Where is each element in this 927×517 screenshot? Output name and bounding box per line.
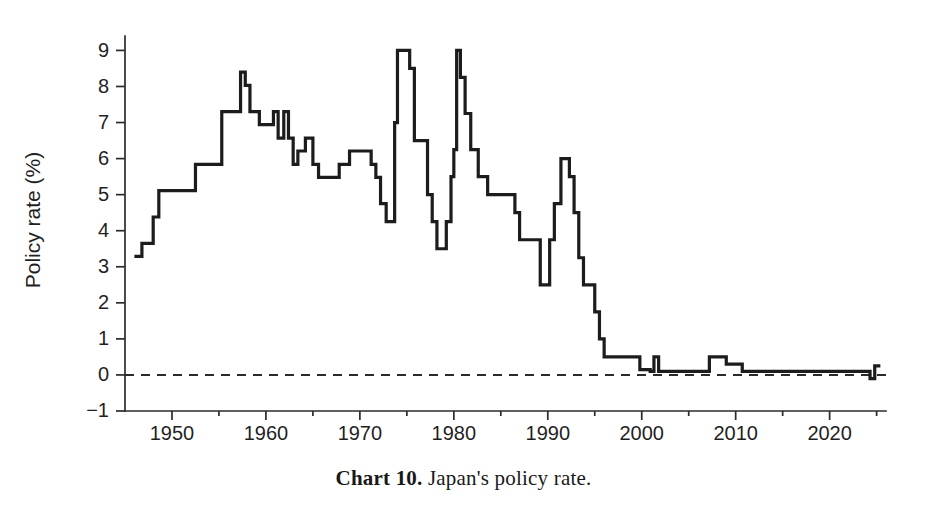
policy-rate-chart: Policy rate (%) −10123456789 19501960197… <box>0 0 927 517</box>
x-tick-label: 1970 <box>338 422 383 444</box>
x-tick-label: 1950 <box>150 422 195 444</box>
x-tick-label: 2000 <box>619 422 664 444</box>
y-tick-label: −1 <box>86 399 109 421</box>
x-tick-label: 1980 <box>432 422 477 444</box>
y-tick-label: 2 <box>98 291 109 313</box>
x-tick-label: 2020 <box>807 422 852 444</box>
y-tick-label: 3 <box>98 255 109 277</box>
y-axis-title: Policy rate (%) <box>21 152 44 289</box>
y-tick-label: 5 <box>98 183 109 205</box>
x-tick-label: 2010 <box>713 422 758 444</box>
policy-rate-series-line <box>134 50 880 378</box>
x-axis-ticks: 19501960197019801990200020102020 <box>150 411 877 444</box>
y-tick-label: 9 <box>98 39 109 61</box>
y-tick-label: 8 <box>98 75 109 97</box>
x-tick-label: 1990 <box>526 422 571 444</box>
y-tick-label: 4 <box>98 219 109 241</box>
y-tick-label: 1 <box>98 327 109 349</box>
y-axis-ticks: −10123456789 <box>86 39 125 422</box>
chart-figure: Policy rate (%) −10123456789 19501960197… <box>0 0 927 517</box>
caption-text: Japan's policy rate. <box>423 466 592 490</box>
figure-caption: Chart 10. Japan's policy rate. <box>0 466 927 491</box>
y-tick-label: 7 <box>98 111 109 133</box>
y-tick-label: 0 <box>98 363 109 385</box>
x-tick-label: 1960 <box>244 422 289 444</box>
caption-label: Chart 10. <box>336 466 423 490</box>
y-tick-label: 6 <box>98 147 109 169</box>
